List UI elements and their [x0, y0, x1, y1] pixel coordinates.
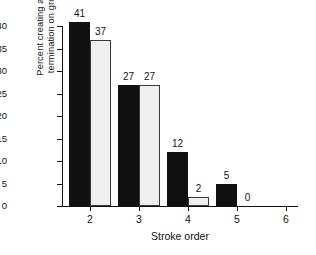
bar — [188, 197, 209, 206]
x-tick — [188, 206, 189, 211]
x-tick-label: 3 — [127, 214, 151, 225]
y-tick-label: 25 — [0, 89, 7, 99]
bar-value-label: 37 — [86, 27, 116, 37]
y-axis-line — [62, 26, 63, 206]
y-tick — [57, 139, 62, 140]
x-tick-label: 4 — [176, 214, 200, 225]
y-tick — [57, 71, 62, 72]
y-tick-label: 0 — [0, 201, 7, 211]
x-tick-label: 2 — [78, 214, 102, 225]
bar — [69, 22, 90, 207]
y-tick — [57, 49, 62, 50]
bar — [90, 40, 111, 207]
y-tick-label: 35 — [0, 44, 7, 54]
plot-area: 23456 4137272712250 — [62, 26, 298, 206]
x-tick — [90, 206, 91, 211]
bar — [118, 85, 139, 207]
bar-value-label: 27 — [135, 72, 165, 82]
bar-value-label: 0 — [233, 193, 263, 203]
y-axis-title-text: Percent creating a new termination on gr… — [35, 0, 57, 76]
x-tick — [139, 206, 140, 211]
y-tick-label: 40 — [0, 21, 7, 31]
y-tick-label: 15 — [0, 134, 7, 144]
x-tick-label: 6 — [274, 214, 298, 225]
y-tick — [57, 161, 62, 162]
y-tick-label: 5 — [0, 179, 7, 189]
x-tick — [237, 206, 238, 211]
y-tick — [57, 26, 62, 27]
y-tick-label: 30 — [0, 66, 7, 76]
bar-chart: Percent creating a new termination on gr… — [0, 0, 316, 255]
x-axis-line — [62, 206, 298, 207]
y-tick — [57, 116, 62, 117]
y-tick — [57, 206, 62, 207]
y-tick — [57, 184, 62, 185]
bar-value-label: 5 — [212, 171, 242, 181]
y-tick-label: 10 — [0, 156, 7, 166]
bar-value-label: 12 — [163, 139, 193, 149]
x-tick — [286, 206, 287, 211]
y-tick — [57, 94, 62, 95]
y-tick-label: 20 — [0, 111, 7, 121]
bar — [167, 152, 188, 206]
bar-value-label: 2 — [184, 184, 214, 194]
x-axis-title: Stroke order — [62, 230, 298, 242]
y-axis-title: Percent creating a new termination on gr… — [33, 0, 59, 117]
bar-value-label: 41 — [65, 9, 95, 19]
x-tick-label: 5 — [225, 214, 249, 225]
bar — [139, 85, 160, 207]
